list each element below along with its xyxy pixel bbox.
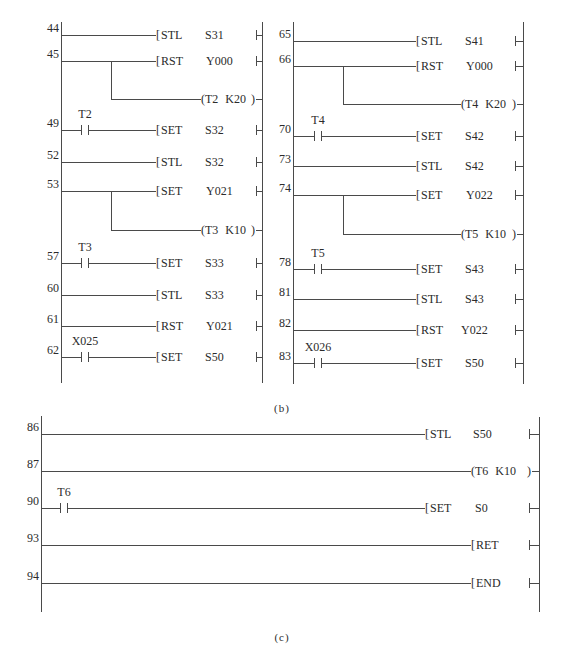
wire: [61, 191, 157, 192]
instruction: SET: [156, 123, 182, 137]
wire: [293, 269, 417, 270]
no-contact-icon: [81, 125, 89, 135]
figure-caption-b: (b): [262, 401, 302, 415]
end-bracket-icon: [515, 190, 524, 200]
instruction: SET: [156, 350, 182, 364]
step-number: 44: [31, 22, 59, 35]
contact-label: X026: [298, 341, 338, 354]
coil-close-icon: [251, 223, 255, 237]
wire: [517, 104, 523, 105]
operand: S0: [475, 501, 488, 515]
wire: [61, 61, 157, 62]
wire: [293, 41, 417, 42]
step-number: 49: [31, 117, 59, 130]
wire: [532, 471, 539, 472]
wire: [111, 99, 202, 100]
end-bracket-icon: [515, 36, 524, 46]
step-number: 86: [10, 421, 39, 434]
coil-device: T2: [205, 92, 218, 106]
operand: S43: [465, 292, 484, 306]
coil-close-icon: [512, 97, 516, 111]
instruction: STL: [156, 288, 182, 302]
contact-label: X025: [65, 335, 105, 348]
wire: [61, 130, 157, 131]
wire: [343, 234, 462, 235]
operand: Y021: [206, 184, 233, 198]
operand: S50: [465, 356, 484, 370]
step-number: 45: [31, 48, 59, 61]
step-number: 57: [31, 250, 59, 263]
end-bracket-icon: [256, 157, 263, 167]
end-bracket-icon: [529, 540, 540, 550]
operand: S33: [205, 256, 224, 270]
wire: [61, 263, 157, 264]
contact-label: T5: [298, 247, 338, 260]
operand: S41: [465, 34, 484, 48]
wire: [41, 583, 472, 584]
coil-constant: K20: [225, 92, 246, 106]
wire: [256, 230, 262, 231]
coil-close-icon: [512, 227, 516, 241]
step-number: 94: [10, 570, 39, 583]
coil-close-icon: [527, 464, 531, 478]
instruction: RST: [156, 54, 183, 68]
instruction: SET: [156, 184, 182, 198]
operand: S33: [205, 288, 224, 302]
wire: [61, 326, 157, 327]
instruction: RST: [416, 323, 443, 337]
wire: [293, 363, 417, 364]
step-number: 82: [263, 317, 291, 330]
end-bracket-icon: [529, 578, 540, 588]
wire: [256, 99, 262, 100]
no-contact-icon: [81, 258, 89, 268]
coil-device: T6: [475, 464, 488, 478]
step-number: 90: [10, 495, 39, 508]
wire: [293, 330, 417, 331]
end-bracket-icon: [256, 258, 263, 268]
end-bracket-icon: [256, 321, 263, 331]
step-number: 62: [31, 344, 59, 357]
instruction: STL: [156, 155, 182, 169]
instruction: STL: [156, 28, 182, 42]
wire: [293, 299, 417, 300]
timer-coil: T3K10: [201, 223, 246, 237]
timer-coil: T2K20: [201, 92, 246, 106]
operand: S42: [465, 159, 484, 173]
wire: [41, 508, 426, 509]
step-number: 78: [263, 256, 291, 269]
end-bracket-icon: [256, 56, 263, 66]
instruction: SET: [156, 256, 182, 270]
wire: [61, 357, 157, 358]
wire: [111, 230, 202, 231]
coil-close-icon: [251, 92, 255, 106]
operand: Y022: [461, 323, 488, 337]
timer-coil: T6K10: [471, 464, 516, 478]
end-bracket-icon: [256, 186, 263, 196]
end-bracket-icon: [515, 61, 524, 71]
wire: [41, 434, 426, 435]
step-number: 52: [31, 149, 59, 162]
instruction: STL: [425, 427, 451, 441]
contact-label: T6: [44, 486, 84, 499]
step-number: 70: [263, 123, 291, 136]
step-number: 73: [263, 153, 291, 166]
operand: Y000: [206, 54, 233, 68]
operand: S32: [205, 123, 224, 137]
coil-device: T4: [465, 97, 478, 111]
step-number: 74: [263, 182, 291, 195]
branch-wire: [111, 191, 112, 230]
wire: [61, 162, 157, 163]
step-number: 53: [31, 178, 59, 191]
instruction: END: [471, 576, 501, 590]
operand: Y021: [206, 319, 233, 333]
contact-label: T4: [298, 114, 338, 127]
operand: S42: [465, 129, 484, 143]
coil-device: T5: [465, 227, 478, 241]
operand: Y022: [466, 188, 493, 202]
operand: S31: [205, 28, 224, 42]
instruction: STL: [416, 159, 442, 173]
end-bracket-icon: [529, 503, 540, 513]
end-bracket-icon: [515, 161, 524, 171]
no-contact-icon: [314, 358, 322, 368]
branch-wire: [111, 61, 112, 99]
